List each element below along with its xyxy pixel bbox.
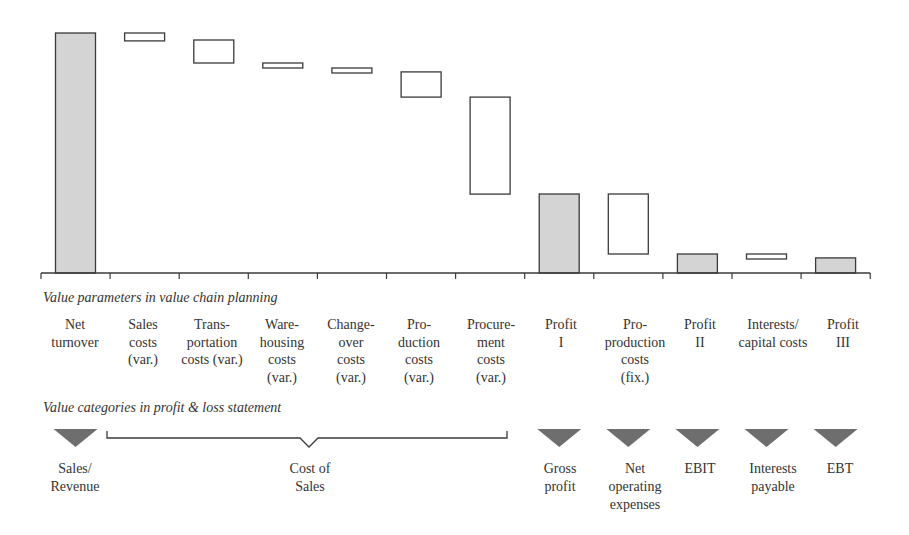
bar-net-turnover xyxy=(56,33,96,273)
category-markers xyxy=(54,429,858,447)
parameters-section-title: Value parameters in value chain planning xyxy=(43,290,277,306)
param-label-transportation-costs: Trans- portation costs (var.) xyxy=(172,316,252,369)
cat-label-cost-of-sales: Cost of Sales xyxy=(260,460,360,496)
triangle-marker-icon-interests-payable xyxy=(745,429,789,447)
bar-changeover-costs-var xyxy=(332,68,372,73)
bar-profit-ii xyxy=(677,254,717,273)
categories-section-title: Value categories in profit & loss statem… xyxy=(43,400,281,416)
cat-label-net-operating-expenses: Net operating expenses xyxy=(595,460,675,514)
bar-pro-production-costs-fix xyxy=(608,194,648,254)
triangle-marker-icon-ebt xyxy=(814,429,858,447)
waterfall-chart xyxy=(0,0,909,535)
param-label-interests-capital-costs: Interests/ capital costs xyxy=(728,316,818,351)
bar-procurement-costs-var xyxy=(470,97,510,194)
param-label-pro-production-costs: Pro- production costs (fix.) xyxy=(595,316,675,386)
param-label-production-costs: Pro- duction costs (var.) xyxy=(384,316,454,386)
triangle-marker-icon-gross-profit xyxy=(537,429,581,447)
bar-sales-costs-var xyxy=(125,33,165,41)
param-label-warehousing-costs: Ware- housing costs (var.) xyxy=(247,316,317,386)
param-label-profit-2: Profit II xyxy=(670,316,730,351)
bar-profit-iii xyxy=(816,258,856,273)
bar-interests-capital-costs xyxy=(747,254,787,259)
bar-warehousing-costs-var xyxy=(263,63,303,68)
param-label-changeover-costs: Change- over costs (var.) xyxy=(316,316,386,386)
bar-transportation-costs-var xyxy=(194,40,234,63)
cat-label-interests-payable: Interests payable xyxy=(738,460,808,496)
cost-of-sales-bracket xyxy=(107,431,507,447)
param-label-net-turnover: Net turnover xyxy=(35,316,115,351)
triangle-marker-icon-net-operating-expenses xyxy=(606,429,650,447)
triangle-marker-icon-ebit xyxy=(675,429,719,447)
param-label-profit-3: Profit III xyxy=(813,316,873,351)
cat-label-ebit: EBIT xyxy=(670,460,730,478)
param-label-sales-costs: Sales costs (var.) xyxy=(108,316,178,369)
x-axis xyxy=(41,273,870,279)
param-label-procurement-costs: Procure- ment costs (var.) xyxy=(456,316,526,386)
bars-group xyxy=(56,33,856,273)
cat-label-ebt: EBT xyxy=(810,460,870,478)
bar-production-costs-var xyxy=(401,72,441,97)
cat-label-gross-profit: Gross profit xyxy=(530,460,590,496)
triangle-marker-icon-sales-revenue xyxy=(54,429,98,447)
bar-profit-i xyxy=(539,194,579,273)
param-label-profit-1: Profit I xyxy=(530,316,592,351)
cat-label-sales-revenue: Sales/ Revenue xyxy=(35,460,115,496)
